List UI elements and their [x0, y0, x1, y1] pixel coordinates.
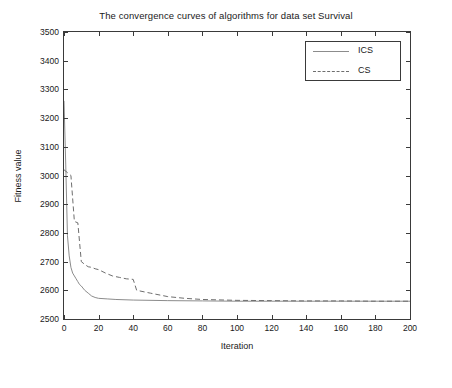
y-tick: [64, 290, 68, 291]
y-tick: [64, 89, 68, 90]
y-tick-right: [406, 147, 410, 148]
legend: ICS CS: [305, 41, 401, 81]
x-tick-top: [272, 32, 273, 36]
y-axis-label: Fitness value: [13, 116, 23, 236]
y-tick-label: 3400: [40, 56, 59, 66]
x-tick: [168, 315, 169, 319]
legend-label-ics: ICS: [358, 45, 373, 55]
legend-label-cs: CS: [358, 65, 371, 75]
x-tick: [410, 315, 411, 319]
x-tick-label: 120: [265, 323, 279, 333]
y-tick-label: 3300: [40, 84, 59, 94]
x-tick-label: 40: [128, 323, 137, 333]
plot-area: ICS CS 250026002700280029003000310032003…: [63, 31, 411, 320]
y-tick: [64, 204, 68, 205]
y-tick-label: 3100: [40, 142, 59, 152]
y-tick: [64, 147, 68, 148]
y-tick-right: [406, 61, 410, 62]
x-tick-label: 200: [403, 323, 417, 333]
y-tick-label: 2700: [40, 257, 59, 267]
y-tick-right: [406, 89, 410, 90]
x-tick: [272, 315, 273, 319]
y-tick-label: 3200: [40, 113, 59, 123]
y-tick-right: [406, 118, 410, 119]
x-tick: [375, 315, 376, 319]
x-tick-top: [375, 32, 376, 36]
y-tick-right: [406, 204, 410, 205]
x-tick: [64, 315, 65, 319]
x-tick-top: [133, 32, 134, 36]
legend-sample-ics: [313, 51, 349, 52]
x-tick-top: [306, 32, 307, 36]
x-tick: [237, 315, 238, 319]
legend-item-cs: CS: [306, 62, 400, 82]
x-tick-label: 160: [334, 323, 348, 333]
legend-item-ics: ICS: [306, 42, 400, 62]
series-line-ics: [64, 101, 410, 301]
legend-sample-cs: [313, 71, 349, 72]
x-tick-top: [64, 32, 65, 36]
series-line-cs: [64, 170, 410, 301]
y-tick-label: 2900: [40, 199, 59, 209]
y-tick-label: 3500: [40, 27, 59, 37]
x-tick-label: 20: [94, 323, 103, 333]
x-tick-top: [168, 32, 169, 36]
x-tick: [133, 315, 134, 319]
y-tick: [64, 176, 68, 177]
y-tick-label: 2500: [40, 314, 59, 324]
x-tick-top: [237, 32, 238, 36]
x-tick: [99, 315, 100, 319]
x-tick-label: 0: [62, 323, 67, 333]
x-tick-top: [202, 32, 203, 36]
x-tick-label: 140: [299, 323, 313, 333]
x-axis-label: Iteration: [63, 341, 411, 351]
y-tick-right: [406, 262, 410, 263]
x-tick-top: [341, 32, 342, 36]
y-tick: [64, 233, 68, 234]
y-tick-right: [406, 233, 410, 234]
y-tick-right: [406, 176, 410, 177]
x-tick-top: [410, 32, 411, 36]
y-tick-right: [406, 290, 410, 291]
y-tick: [64, 61, 68, 62]
x-tick: [306, 315, 307, 319]
x-tick-label: 80: [198, 323, 207, 333]
y-tick: [64, 262, 68, 263]
y-tick-label: 3000: [40, 171, 59, 181]
x-tick: [202, 315, 203, 319]
y-tick-right: [406, 319, 410, 320]
figure: The convergence curves of algorithms for…: [0, 0, 452, 388]
x-tick-label: 180: [368, 323, 382, 333]
y-tick-label: 2600: [40, 285, 59, 295]
x-tick-label: 60: [163, 323, 172, 333]
y-tick-label: 2800: [40, 228, 59, 238]
y-tick: [64, 118, 68, 119]
x-tick-top: [99, 32, 100, 36]
chart-title: The convergence curves of algorithms for…: [0, 10, 452, 21]
x-tick-label: 100: [230, 323, 244, 333]
y-tick: [64, 319, 68, 320]
x-tick: [341, 315, 342, 319]
